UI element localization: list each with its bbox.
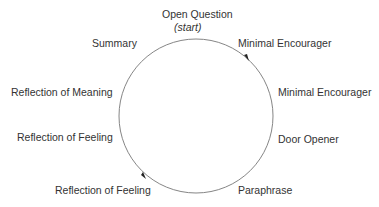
node-open-question: Open Question <box>162 8 233 20</box>
node-minimal-encourager-1: Minimal Encourager <box>238 37 331 49</box>
node-reflection-of-feeling-1: Reflection of Feeling <box>17 131 113 143</box>
node-door-opener: Door Opener <box>278 133 339 145</box>
cycle-circle <box>119 39 273 193</box>
node-reflection-of-meaning: Reflection of Meaning <box>11 86 113 98</box>
node-paraphrase: Paraphrase <box>238 184 292 196</box>
node-minimal-encourager-2: Minimal Encourager <box>278 86 371 98</box>
arrow-icon <box>141 172 146 179</box>
arrow-icon <box>244 54 249 61</box>
node-open-question-sub: (start) <box>174 21 201 33</box>
node-summary: Summary <box>92 37 137 49</box>
node-reflection-of-feeling-2: Reflection of Feeling <box>55 184 151 196</box>
